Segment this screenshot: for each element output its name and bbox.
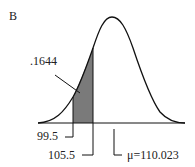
normal-curve-plot	[0, 0, 195, 167]
panel-label: B	[9, 10, 17, 22]
upper-bound-label: 105.5	[48, 149, 75, 161]
shaded-area	[73, 48, 93, 123]
mean-label: μ=110.023	[127, 149, 179, 161]
shaded-area-value: .1644	[30, 55, 57, 67]
area-pointer-arrow	[55, 75, 80, 93]
normal-curve	[38, 17, 185, 123]
normal-distribution-figure: B .1644 99.5 105.5 μ=110.023	[0, 0, 195, 167]
lower-bound-label: 99.5	[37, 130, 58, 142]
